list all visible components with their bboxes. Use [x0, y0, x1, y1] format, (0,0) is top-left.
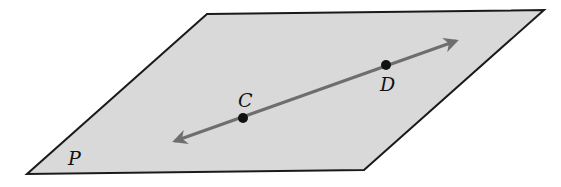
diagram-canvas: C D P [0, 0, 561, 187]
plane-p [27, 10, 544, 174]
point-d-label: D [379, 73, 395, 95]
point-d [381, 60, 391, 70]
point-c-label: C [238, 89, 253, 111]
plane-p-label: P [67, 147, 82, 169]
point-c [238, 113, 248, 123]
